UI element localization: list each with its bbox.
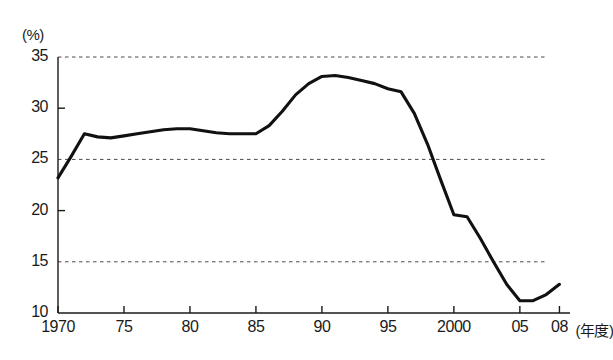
- x-axis-unit-label: (年度): [575, 319, 613, 340]
- x-tick-label-75: 75: [116, 318, 133, 336]
- y-tick-label-20: 20: [8, 201, 48, 219]
- y-tick-label-15: 15: [8, 252, 48, 270]
- data-series-group: [58, 75, 559, 300]
- y-tick-label-25: 25: [8, 149, 48, 167]
- y-axis-unit-label: (%): [22, 26, 44, 43]
- x-tick-label-90: 90: [314, 318, 331, 336]
- x-tick-label-1970: 1970: [41, 318, 75, 336]
- data-line: [58, 75, 559, 300]
- y-tick-label-30: 30: [8, 98, 48, 116]
- x-tick-label-95: 95: [379, 318, 396, 336]
- x-ticks-group: [58, 306, 559, 313]
- x-tick-label-05: 05: [511, 318, 528, 336]
- x-tick-label-80: 80: [182, 318, 199, 336]
- gridlines-group: [58, 57, 545, 262]
- axes-group: [58, 57, 570, 313]
- x-tick-label-2000: 2000: [437, 318, 471, 336]
- y-tick-label-35: 35: [8, 47, 48, 65]
- x-tick-label-85: 85: [248, 318, 265, 336]
- x-tick-label-08: 08: [551, 318, 568, 336]
